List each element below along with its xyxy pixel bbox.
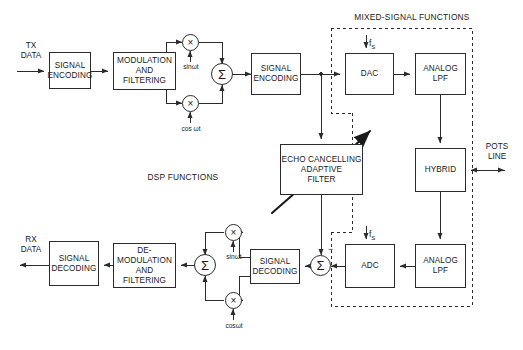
block-analog-lpf-rx[interactable]: ANALOG LPF	[415, 244, 466, 288]
clock-subscript: S	[371, 43, 375, 49]
block-label: SIGNAL DECODING	[253, 257, 298, 277]
mixer-rx-inphase[interactable]: ×	[225, 224, 242, 241]
block-label: DE- MODULATION AND FILTERING	[117, 246, 172, 286]
block-dac[interactable]: DAC	[345, 53, 394, 95]
summer-echo-subtract[interactable]: Σ	[310, 255, 331, 276]
block-label: SIGNAL ENCODING	[48, 61, 93, 81]
block-hybrid[interactable]: HYBRID	[415, 148, 466, 192]
carrier-label-tx-sin: sinωt	[176, 63, 206, 71]
mixer-tx-quadrature[interactable]: ×	[182, 95, 199, 112]
port-label-pots-line: POTS LINE	[477, 142, 517, 162]
block-echo-cancelling-adaptive-filter[interactable]: ECHO CANCELLING ADAPTIVE FILTER	[280, 144, 363, 195]
block-label: ADC	[361, 261, 379, 271]
port-label-rx-data: RX DATA	[14, 235, 48, 255]
block-adc[interactable]: ADC	[345, 244, 395, 288]
block-label: SIGNAL ENCODING	[254, 64, 299, 84]
block-modulation-and-filtering[interactable]: MODULATION AND FILTERING	[113, 52, 176, 90]
multiply-icon: ×	[188, 38, 194, 48]
block-diagram-canvas: MIXED-SIGNAL FUNCTIONS DSP FUNCTIONS TX …	[0, 0, 523, 350]
multiply-icon: ×	[231, 296, 237, 306]
section-label-dsp: DSP FUNCTIONS	[128, 172, 238, 182]
block-analog-lpf-tx[interactable]: ANALOG LPF	[415, 53, 466, 95]
section-label-mixed-signal: MIXED-SIGNAL FUNCTIONS	[337, 12, 487, 22]
summer-tx[interactable]: Σ	[211, 63, 233, 85]
block-tx-signal-encoding[interactable]: SIGNAL ENCODING	[49, 52, 91, 89]
summer-rx[interactable]: Σ	[194, 254, 216, 276]
carrier-label-rx-sin: sinωt	[219, 253, 249, 261]
port-label-tx-data: TX DATA	[14, 41, 48, 61]
clock-label-fs-dac: fS	[369, 28, 385, 51]
mixer-tx-inphase[interactable]: ×	[182, 34, 199, 51]
block-label: ANALOG LPF	[423, 256, 458, 276]
block-tx-signal-encoding-2[interactable]: SIGNAL ENCODING	[251, 53, 301, 95]
clock-subscript: S	[371, 234, 375, 240]
multiply-icon: ×	[231, 228, 237, 238]
block-label: SIGNAL DECODING	[52, 254, 97, 274]
block-demodulation-and-filtering[interactable]: DE- MODULATION AND FILTERING	[113, 243, 176, 288]
block-rx-signal-decoding[interactable]: SIGNAL DECODING	[250, 249, 300, 284]
sigma-icon: Σ	[316, 259, 324, 272]
block-rx-signal-decoding-output[interactable]: SIGNAL DECODING	[49, 241, 99, 286]
sigma-icon: Σ	[201, 259, 209, 272]
carrier-label-rx-cos: cosωt	[218, 322, 250, 330]
block-label: ANALOG LPF	[423, 64, 458, 84]
block-label: MODULATION AND FILTERING	[117, 56, 172, 86]
minus-sign-echo-subtract: −	[328, 245, 333, 254]
multiply-icon: ×	[188, 99, 194, 109]
block-label: HYBRID	[425, 165, 457, 175]
clock-label-fs-adc: fS	[369, 219, 385, 242]
block-label: ECHO CANCELLING ADAPTIVE FILTER	[282, 155, 362, 185]
mixer-rx-quadrature[interactable]: ×	[225, 292, 242, 309]
block-label: DAC	[361, 69, 379, 79]
carrier-label-tx-cos: cos ωt	[175, 125, 207, 133]
sigma-icon: Σ	[218, 68, 226, 81]
